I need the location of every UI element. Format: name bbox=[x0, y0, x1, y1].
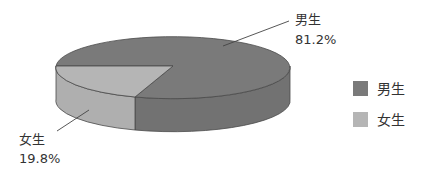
data-label-female-name: 女生 bbox=[19, 131, 60, 148]
data-label-male-value: 81.2% bbox=[295, 31, 336, 48]
data-label-female: 女生 19.8% bbox=[19, 131, 60, 167]
legend-swatch-male bbox=[353, 81, 368, 96]
legend-item-female: 女生 bbox=[353, 109, 405, 129]
data-label-male-name: 男生 bbox=[295, 11, 336, 28]
legend-item-male: 男生 bbox=[353, 78, 405, 98]
data-label-male: 男生 81.2% bbox=[295, 11, 336, 48]
legend-swatch-female bbox=[353, 112, 368, 127]
leader-line-male bbox=[223, 21, 289, 46]
data-label-female-value: 19.8% bbox=[19, 150, 60, 167]
legend-label-female: 女生 bbox=[377, 109, 405, 129]
legend-label-male: 男生 bbox=[377, 78, 405, 98]
